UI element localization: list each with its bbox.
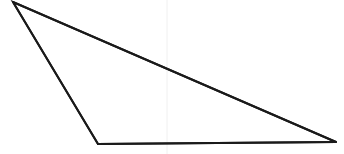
- figure-background: [0, 0, 344, 154]
- figure-canvas: [0, 0, 344, 154]
- triangle-diagram: [0, 0, 344, 154]
